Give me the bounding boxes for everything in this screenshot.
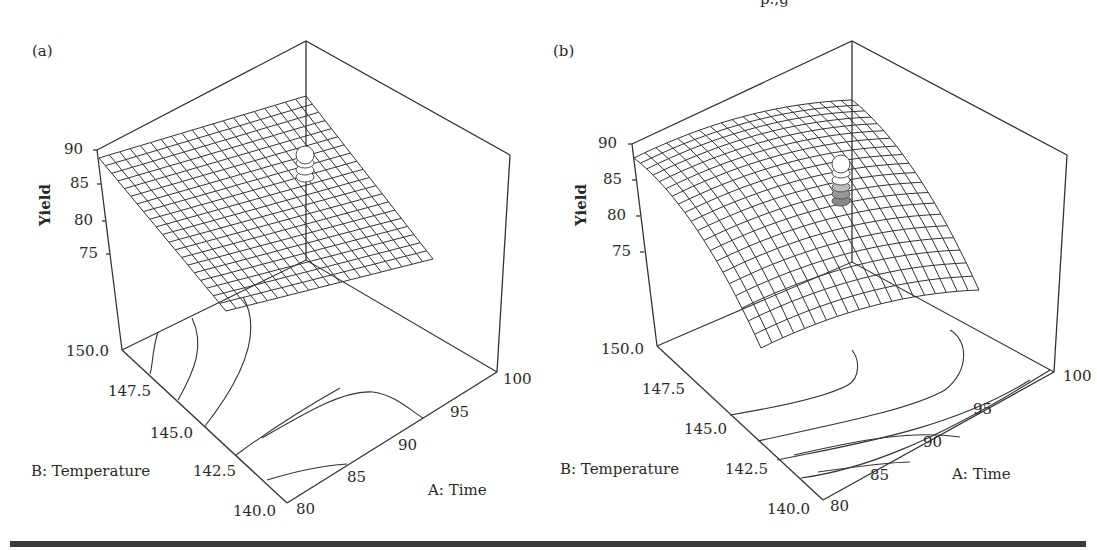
a-tick: 90	[923, 433, 942, 451]
box-left-vertical	[97, 150, 122, 350]
z-tick: 75	[79, 244, 98, 262]
b-tick: 150.0	[66, 342, 109, 360]
box-top-edge	[97, 41, 510, 155]
a-tick: 80	[830, 497, 849, 515]
b-tick: 140.0	[767, 500, 810, 518]
b-tick: 142.5	[725, 460, 768, 478]
b-tick: 142.5	[193, 462, 236, 480]
z-tick: 90	[64, 140, 83, 158]
z-tick: 80	[607, 206, 626, 224]
b-tick: 147.5	[108, 382, 151, 400]
z-axis-title: Yield	[572, 184, 590, 226]
z-tick: 75	[612, 242, 631, 260]
response-surface-mesh	[634, 100, 979, 348]
a-tick: 100	[1063, 367, 1092, 385]
response-surface-mesh	[99, 96, 433, 311]
a-tick: 95	[450, 403, 469, 421]
z-tick: 90	[598, 134, 617, 152]
a-tick: 85	[347, 468, 366, 486]
b-tick: 145.0	[150, 424, 193, 442]
b-tick: 140.0	[233, 502, 276, 520]
z-tick: 85	[603, 170, 622, 188]
design-point-spheres	[832, 155, 850, 206]
panel-b-surface-plot: (b)	[530, 0, 1078, 520]
b-tick: 147.5	[642, 380, 685, 398]
b-axis-title: B: Temperature	[31, 462, 150, 480]
b-tick: 145.0	[684, 420, 727, 438]
b-axis-line	[122, 350, 287, 503]
a-axis-title: A: Time	[952, 465, 1011, 483]
z-tick: 80	[74, 211, 93, 229]
design-point-spheres	[296, 146, 314, 182]
a-axis-title: A: Time	[428, 481, 487, 499]
panel-a-surface-plot: (a)	[0, 0, 548, 520]
a-tick: 90	[398, 436, 417, 454]
a-tick: 80	[296, 500, 315, 518]
box-right-vertical	[497, 155, 510, 372]
surface-plot-b	[530, 0, 1078, 520]
z-axis-title: Yield	[36, 184, 54, 226]
z-tick: 85	[70, 174, 89, 192]
a-tick: 95	[973, 400, 992, 418]
b-tick: 150.0	[601, 340, 644, 358]
a-tick: 100	[503, 370, 532, 388]
a-tick: 85	[870, 466, 889, 484]
b-axis-title: B: Temperature	[560, 460, 679, 478]
bottom-rule	[10, 541, 1086, 547]
